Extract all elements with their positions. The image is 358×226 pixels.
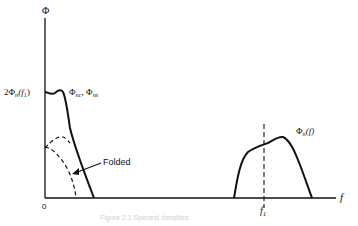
y-axis-label: Φ [42, 6, 49, 16]
folded-dashed-curve [45, 147, 76, 198]
bandpass-curve [234, 137, 312, 198]
bandpass-curve-label: Φn(f) [296, 127, 314, 137]
origin-label: 0 [42, 203, 46, 211]
y-level-label: 2Φn(f1) [4, 88, 30, 98]
figure-caption: Figure 2.1 Spectral densities [100, 214, 189, 221]
lowpass-curve-label: Φnc, Φns [69, 88, 98, 98]
center-frequency-label: f1 [260, 206, 266, 218]
folded-arrowhead [72, 168, 79, 175]
spectral-density-diagram: Φ f 0 2Φn(f1) Φnc, Φns Φn(f) Folded f1 F… [0, 0, 358, 226]
folded-upper-dashed-curve [45, 137, 70, 148]
lowpass-curve [45, 90, 94, 198]
x-axis-label: f [340, 192, 343, 203]
folded-label: Folded [103, 158, 131, 167]
diagram-canvas [0, 0, 358, 226]
